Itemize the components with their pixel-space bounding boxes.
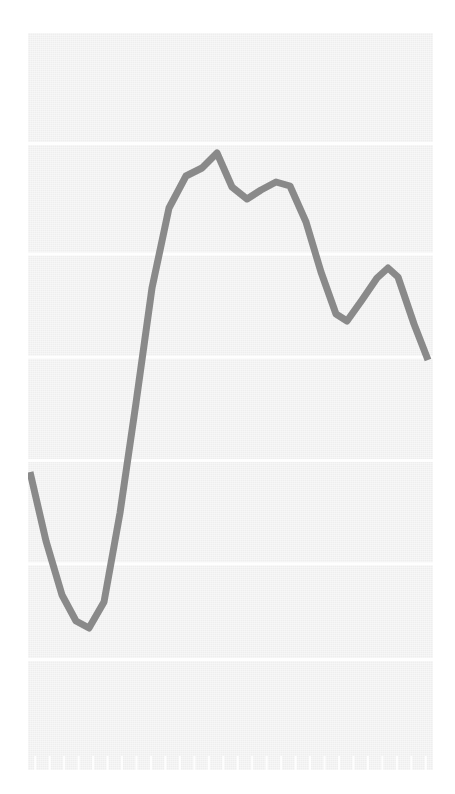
series-group [28,33,433,770]
plot-area [28,33,433,770]
chart-root: Line chart with a single gray series on … [0,0,455,794]
series-line-series-1 [30,153,428,628]
chart-description: Line chart with a single gray series on … [0,0,1,1]
